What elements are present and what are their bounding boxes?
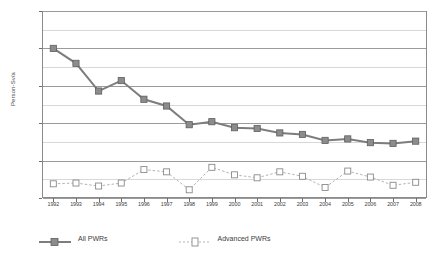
legend-swatch-all-pwrs — [38, 233, 72, 243]
data-point-marker — [186, 122, 192, 128]
data-point-marker — [209, 164, 215, 170]
data-point-marker — [413, 138, 419, 144]
data-point-marker — [367, 140, 373, 146]
data-point-marker — [390, 140, 396, 146]
data-point-marker — [390, 182, 396, 188]
data-point-marker — [299, 173, 305, 179]
data-point-marker — [299, 131, 305, 137]
data-point-marker — [232, 172, 238, 178]
data-point-marker — [141, 96, 147, 102]
data-point-marker — [50, 181, 56, 187]
data-series-layer — [0, 0, 431, 256]
chart-container: Person-Sv/a 00.51.01.52.02.5 19921993199… — [0, 0, 431, 256]
legend-label-all-pwrs: All PWRs — [78, 235, 108, 242]
data-point-marker — [254, 175, 260, 181]
data-point-marker — [277, 169, 283, 175]
legend-label-advanced-pwrs: Advanced PWRs — [218, 235, 271, 242]
data-point-marker — [322, 185, 328, 191]
data-point-marker — [367, 174, 373, 180]
data-point-marker — [141, 167, 147, 173]
legend-item-all-pwrs[interactable]: All PWRs — [38, 233, 108, 243]
data-point-marker — [322, 137, 328, 143]
data-point-marker — [231, 125, 237, 131]
data-point-marker — [277, 130, 283, 136]
data-point-marker — [413, 179, 419, 185]
data-point-marker — [345, 168, 351, 174]
data-point-marker — [96, 183, 102, 189]
data-point-marker — [345, 136, 351, 142]
data-point-marker — [96, 88, 102, 94]
data-point-marker — [254, 125, 260, 131]
data-point-marker — [118, 180, 124, 186]
data-point-marker — [73, 60, 79, 66]
legend-item-advanced-pwrs[interactable]: Advanced PWRs — [178, 233, 271, 243]
chart-legend: All PWRs Advanced PWRs — [38, 228, 398, 248]
data-point-marker — [209, 119, 215, 125]
series-all-pwrs — [50, 45, 419, 146]
series-advanced-pwrs — [50, 164, 418, 192]
data-point-marker — [118, 77, 124, 83]
data-point-marker — [73, 180, 79, 186]
series-line — [53, 167, 415, 189]
data-point-marker — [50, 45, 56, 51]
legend-swatch-advanced-pwrs — [178, 233, 212, 243]
data-point-marker — [164, 169, 170, 175]
data-point-marker — [186, 187, 192, 193]
data-point-marker — [163, 103, 169, 109]
